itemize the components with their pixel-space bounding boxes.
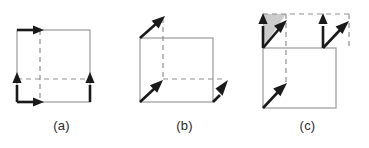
figure-container: (a) (0, 0, 369, 148)
panel-c: (c) (246, 0, 369, 148)
panel-a: (a) (0, 0, 123, 148)
cube-outline-a (17, 30, 90, 102)
panel-b-caption: (b) (123, 118, 246, 134)
arrows-b (140, 16, 228, 102)
bottom-left-diagonal-arrow (140, 80, 163, 102)
bottom-left-diagonal-arrow (263, 83, 287, 108)
top-left-diagonal-arrow (140, 16, 165, 38)
bottom-edge-right-arrow (17, 97, 44, 106)
dashed-edges-b (163, 18, 226, 79)
cube-outline-c (263, 48, 336, 108)
top-right-diagonal-arrow (323, 21, 349, 48)
panel-b: (b) (123, 0, 246, 148)
panel-a-caption: (a) (0, 118, 123, 134)
left-edge-up-arrow (12, 72, 21, 102)
arrows-a (12, 25, 94, 106)
bottom-right-diagonal-arrow (213, 80, 228, 102)
panel-c-caption: (c) (246, 118, 369, 134)
dashed-edges-a (17, 30, 90, 102)
right-edge-up-arrow (85, 72, 94, 102)
